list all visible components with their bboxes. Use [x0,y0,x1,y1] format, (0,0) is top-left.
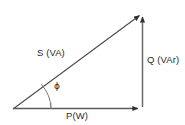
angle-arc-phi [41,84,51,108]
label-phase-angle: ϕ [54,81,60,91]
label-apparent-power: S (VA) [37,47,65,58]
hypotenuse-line-s [13,16,140,110]
power-triangle-diagram: S (VA) Q (VAr) P(W) ϕ [0,0,185,125]
label-real-power: P(W) [66,110,88,121]
label-reactive-power: Q (VAr) [147,54,179,65]
